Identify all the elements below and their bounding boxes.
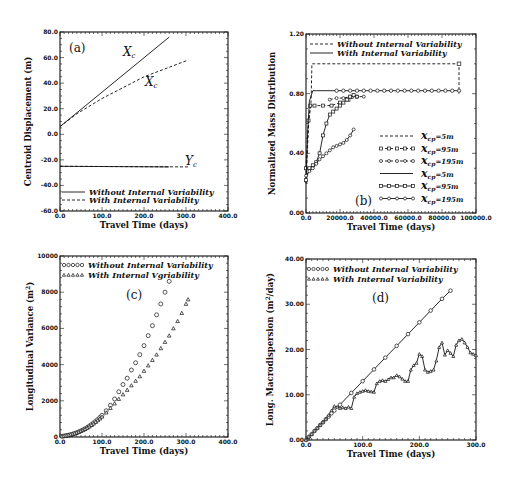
circle-marker xyxy=(444,89,447,92)
circle-marker xyxy=(339,143,342,146)
circle-marker xyxy=(349,89,352,92)
square-marker xyxy=(412,185,415,188)
y-tick-label: 80.0 xyxy=(43,28,58,35)
triangle-marker xyxy=(159,347,163,350)
square-marker xyxy=(380,185,383,188)
curve-annotation: Xc xyxy=(144,75,158,90)
panel-label: (b) xyxy=(355,194,372,208)
ticks xyxy=(60,32,228,211)
panel-c: 0.0100.0200.0300.0400.002000400060008000… xyxy=(24,252,237,456)
square-marker xyxy=(305,167,308,170)
circle-marker xyxy=(362,95,365,98)
circle-marker xyxy=(440,297,444,301)
y-tick-label: -60.0 xyxy=(41,207,58,214)
circle-marker xyxy=(150,324,154,328)
circle-marker xyxy=(384,356,388,360)
x-tick-label: 60000.0 xyxy=(394,214,421,221)
circle-marker xyxy=(335,144,338,147)
square-marker xyxy=(388,147,391,150)
circle-marker xyxy=(71,263,74,266)
y-tick-label: -20.0 xyxy=(41,156,58,163)
circle-marker xyxy=(396,160,399,163)
triangle-marker xyxy=(350,407,353,410)
y-tick-label: 0 xyxy=(54,433,58,440)
square-marker xyxy=(380,147,383,150)
circle-marker xyxy=(159,302,163,306)
triangle-marker xyxy=(361,390,364,393)
y-tick-label: 0.40 xyxy=(289,149,304,156)
circle-marker xyxy=(383,89,386,92)
circle-marker xyxy=(80,263,83,266)
circle-marker xyxy=(349,134,352,137)
circle-marker xyxy=(125,376,129,380)
panel-a: 0.0100.0200.0300.0400.0-60.0-40.0-20.00.… xyxy=(23,28,237,230)
y-tick-label: 10000 xyxy=(37,252,58,259)
square-marker xyxy=(318,152,321,155)
triangle-marker xyxy=(146,364,150,367)
triangle-marker xyxy=(370,390,373,393)
square-marker xyxy=(349,95,352,98)
circle-marker xyxy=(396,89,399,92)
legend-label: With Internal Variability xyxy=(337,48,448,58)
circle-marker xyxy=(412,197,415,200)
square-marker xyxy=(325,122,328,125)
circle-marker xyxy=(412,160,415,163)
figure: 0.0100.0200.0300.0400.0-60.0-40.0-20.00.… xyxy=(0,0,514,485)
circle-marker xyxy=(163,290,167,294)
circle-marker xyxy=(146,334,150,338)
x-axis-label: Travel Time (days) xyxy=(347,449,435,459)
panel-label: (a) xyxy=(69,41,86,55)
circle-marker xyxy=(318,158,321,161)
circle-marker xyxy=(449,289,453,293)
legend-label: xcp=195m xyxy=(420,192,463,206)
legend-label: With Internal Vgriability xyxy=(88,270,200,280)
square-marker xyxy=(412,147,415,150)
x-axis-label: Travel Time (days) xyxy=(347,222,435,232)
circle-marker xyxy=(430,89,433,92)
triangle-marker xyxy=(134,379,138,382)
plot-frame xyxy=(60,32,228,211)
circle-marker xyxy=(305,174,308,177)
data-lines xyxy=(304,289,477,442)
circle-marker xyxy=(380,160,383,163)
y-tick-label: 20.0 xyxy=(43,105,58,112)
triangle-marker xyxy=(418,353,421,356)
square-marker xyxy=(457,62,461,66)
square-marker xyxy=(330,104,333,107)
panel-label: (c) xyxy=(126,288,142,302)
triangle-marker xyxy=(113,402,117,405)
square-marker xyxy=(396,185,399,188)
circle-marker xyxy=(389,89,392,92)
panel-d: 0.0100.0200.0300.00.0010.0020.0030.0040.… xyxy=(264,255,485,459)
square-marker xyxy=(335,107,338,110)
square-marker xyxy=(332,110,335,113)
circle-marker xyxy=(332,146,335,149)
circle-marker xyxy=(62,263,65,266)
circle-marker xyxy=(345,138,348,141)
triangle-marker xyxy=(186,298,190,301)
triangle-marker xyxy=(367,390,370,393)
circle-marker xyxy=(322,155,325,158)
circle-marker xyxy=(437,89,440,92)
triangle-marker xyxy=(76,273,79,276)
legend-label: Without Internal Variability xyxy=(333,264,459,274)
circle-marker xyxy=(404,197,407,200)
circle-marker xyxy=(113,397,117,401)
x-axis-label: Travel Time (days) xyxy=(100,446,188,456)
triangle-marker xyxy=(317,278,320,281)
circle-marker xyxy=(338,403,342,407)
y-tick-label: 60.0 xyxy=(43,54,58,61)
y-tick-label: 0.00 xyxy=(289,209,304,216)
circle-marker xyxy=(404,160,407,163)
y-tick-label: 40.0 xyxy=(43,79,58,86)
triangle-marker xyxy=(62,273,65,276)
square-marker xyxy=(404,147,407,150)
triangle-marker xyxy=(435,359,438,362)
circle-marker xyxy=(321,267,324,270)
triangle-marker xyxy=(326,278,329,281)
triangle-marker xyxy=(381,379,384,382)
triangle-marker xyxy=(339,407,342,410)
square-marker xyxy=(328,113,331,116)
triangle-marker xyxy=(373,391,376,394)
circle-marker xyxy=(312,267,315,270)
